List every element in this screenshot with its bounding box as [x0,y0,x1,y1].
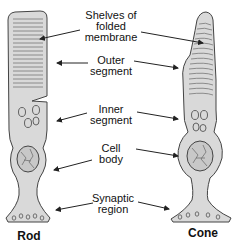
rod-cone-diagram: Shelves of folded membrane Outer segment… [0,0,240,245]
cone-cell-icon [171,12,231,222]
label-cell-body: Cell body [91,143,131,165]
label-rod: Rod [12,229,46,243]
label-inner-segment: Inner segment [86,104,136,126]
label-cone: Cone [183,226,223,240]
label-synaptic-region: Synaptic region [88,193,138,215]
rod-cell-icon [6,11,50,222]
label-shelves-of-folded-membrane: Shelves of folded membrane [82,10,140,43]
label-outer-segment: Outer segment [86,55,136,77]
